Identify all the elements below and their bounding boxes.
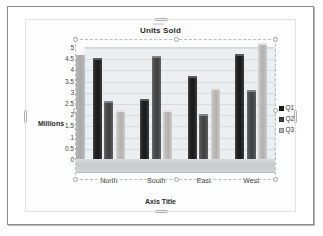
y-axis-tick-labels[interactable]: 54.543.532.521.510.50 [54, 47, 74, 173]
bar-front-face [163, 112, 172, 159]
bar-front-face [140, 101, 149, 159]
legend-swatch-icon [279, 106, 284, 111]
bar-q3-west[interactable] [258, 45, 267, 159]
plot-handle-top-right[interactable] [273, 37, 278, 42]
y-axis-tick-label: 3 [70, 88, 74, 95]
legend-swatch-icon [279, 128, 284, 133]
y-axis-tick-label: 2.5 [65, 100, 74, 107]
y-axis-tick-label: 1 [70, 133, 74, 140]
bar-q1-south[interactable] [140, 101, 149, 159]
bar-front-face [152, 58, 161, 159]
bar-front-face [235, 56, 244, 159]
bar-front-face [93, 60, 102, 159]
legend-label: Q2 [286, 116, 295, 123]
bar-front-face [247, 92, 256, 159]
bar-q2-east[interactable] [199, 116, 208, 159]
bar-q2-south[interactable] [152, 58, 161, 159]
document-canvas: Units Sold Millions 54.543.532.521.510.5… [7, 6, 314, 225]
legend-swatch-icon [279, 117, 284, 122]
chart-legend[interactable]: Q1Q2Q3 [279, 103, 303, 136]
bar-front-face [199, 116, 208, 159]
plot-handle-top-left[interactable] [73, 37, 78, 42]
legend-entry-q3[interactable]: Q3 [279, 125, 303, 136]
plot-handle-middle-right[interactable] [273, 108, 278, 113]
chart-resize-handle-left[interactable] [24, 110, 27, 123]
bar-q1-west[interactable] [235, 56, 244, 159]
bar-front-face [211, 90, 220, 159]
legend-label: Q3 [286, 127, 295, 134]
plot-handle-bottom-left[interactable] [73, 177, 78, 182]
bar-front-face [258, 45, 267, 159]
chart-title-selection-tick [153, 23, 164, 25]
legend-entry-q1[interactable]: Q1 [279, 103, 303, 114]
plot-handle-bottom-center[interactable] [174, 177, 179, 182]
legend-entry-q2[interactable]: Q2 [279, 114, 303, 125]
chart-resize-handle-bottom[interactable] [155, 210, 168, 213]
bar-q2-west[interactable] [247, 92, 256, 159]
chart-title[interactable]: Units Sold [26, 26, 295, 35]
y-axis-tick-label: 4.5 [65, 55, 74, 62]
plot-handle-top-center[interactable] [174, 37, 179, 42]
bar-q3-east[interactable] [211, 90, 220, 159]
legend-label: Q1 [286, 105, 295, 112]
bar-front-face [116, 112, 125, 159]
bar-q3-south[interactable] [163, 112, 172, 159]
bar-front-face [188, 78, 197, 159]
y-axis-tick-label: 1.5 [65, 122, 74, 129]
bar-q1-east[interactable] [188, 78, 197, 159]
bar-q3-north[interactable] [116, 112, 125, 159]
bar-q1-north[interactable] [93, 60, 102, 159]
chart-resize-handle-top[interactable] [155, 18, 168, 21]
y-axis-tick-label: 4 [70, 66, 74, 73]
bar-q2-north[interactable] [104, 103, 113, 159]
bar-front-face [104, 103, 113, 159]
plot-handle-bottom-right[interactable] [273, 177, 278, 182]
y-axis-tick-label: 3.5 [65, 77, 74, 84]
y-axis-tick-label: 0.5 [65, 144, 74, 151]
chart-object[interactable]: Units Sold Millions 54.543.532.521.510.5… [25, 19, 296, 212]
y-axis-tick-label: 0 [70, 156, 74, 163]
plot-handle-middle-left[interactable] [73, 108, 78, 113]
y-axis-tick-label: 5 [70, 44, 74, 51]
x-axis-title[interactable]: Axis Title [26, 198, 295, 205]
